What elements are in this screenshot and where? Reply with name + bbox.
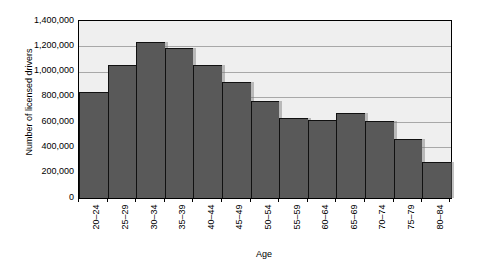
bar-slot xyxy=(336,21,365,198)
bar-slot xyxy=(165,21,194,198)
bar xyxy=(308,120,337,198)
x-tick-slot: 65–69 xyxy=(335,199,364,247)
x-tick-mark xyxy=(135,199,136,202)
x-tick-mark xyxy=(307,199,308,202)
x-tick-slot: 70–74 xyxy=(364,199,393,247)
x-tick-mark xyxy=(335,199,336,202)
x-axis-title: Age xyxy=(78,249,450,259)
bar xyxy=(279,118,308,198)
bar-slot xyxy=(394,21,423,198)
x-tick-mark xyxy=(364,199,365,202)
x-tick-slot: 45–49 xyxy=(221,199,250,247)
x-tick-label: 80–84 xyxy=(436,204,445,229)
x-tick-slot: 50–54 xyxy=(250,199,279,247)
bar-slot xyxy=(365,21,394,198)
bar-slot xyxy=(136,21,165,198)
x-tick-label: 30–34 xyxy=(150,204,159,229)
x-tick-mark xyxy=(192,199,193,202)
x-tick-label: 25–29 xyxy=(121,204,130,229)
y-tick-label: 200,000 xyxy=(16,167,74,176)
y-tick-label: 1,400,000 xyxy=(16,16,74,25)
x-tick-label: 60–64 xyxy=(321,204,330,229)
x-tick-mark xyxy=(278,199,279,202)
x-tick-slot: 80–84 xyxy=(421,199,450,247)
bar xyxy=(394,139,423,198)
x-tick-slot: 25–29 xyxy=(107,199,136,247)
x-tick-mark xyxy=(421,199,422,202)
bar xyxy=(251,101,280,198)
x-tick-slot: 75–79 xyxy=(393,199,422,247)
plot-area xyxy=(78,20,452,199)
bar-slot xyxy=(251,21,280,198)
x-tick-slot: 40–44 xyxy=(192,199,221,247)
bar-series xyxy=(79,21,451,198)
bar xyxy=(136,42,165,198)
bar xyxy=(422,162,451,198)
bar xyxy=(79,92,108,198)
bar-slot xyxy=(79,21,108,198)
x-tick-label: 75–79 xyxy=(407,204,416,229)
bar-slot xyxy=(222,21,251,198)
y-tick-label: 600,000 xyxy=(16,117,74,126)
x-tick-label: 55–59 xyxy=(293,204,302,229)
x-tick-slot: 55–59 xyxy=(278,199,307,247)
bar xyxy=(165,48,194,198)
bar xyxy=(193,65,222,198)
x-tick-mark xyxy=(107,199,108,202)
y-tick-label: 800,000 xyxy=(16,91,74,100)
x-tick-label: 40–44 xyxy=(207,204,216,229)
bar xyxy=(365,121,394,198)
x-tick-slot: 20–24 xyxy=(78,199,107,247)
x-tick-slot: 30–34 xyxy=(135,199,164,247)
y-axis-tick-labels: 0200,000400,000600,000800,0001,000,0001,… xyxy=(16,20,74,197)
bar xyxy=(108,65,137,198)
x-tick-mark xyxy=(164,199,165,202)
bar-slot xyxy=(108,21,137,198)
x-tick-mark xyxy=(78,199,79,202)
bar-slot xyxy=(279,21,308,198)
bar xyxy=(222,82,251,198)
y-tick-label: 400,000 xyxy=(16,142,74,151)
bar-slot xyxy=(193,21,222,198)
y-tick-label: 1,200,000 xyxy=(16,41,74,50)
x-tick-label: 70–74 xyxy=(378,204,387,229)
x-tick-label: 20–24 xyxy=(92,204,101,229)
x-tick-label: 50–54 xyxy=(264,204,273,229)
y-tick-label: 1,000,000 xyxy=(16,66,74,75)
bar-chart-figure: Number of licensed drivers 0200,000400,0… xyxy=(0,0,478,269)
x-tick-slot: 60–64 xyxy=(307,199,336,247)
x-axis-tick-labels: 20–2425–2930–3435–3940–4445–4950–5455–59… xyxy=(78,199,450,247)
x-tick-label: 45–49 xyxy=(235,204,244,229)
x-tick-mark xyxy=(250,199,251,202)
x-tick-mark xyxy=(221,199,222,202)
x-tick-label: 35–39 xyxy=(178,204,187,229)
x-tick-mark xyxy=(449,199,450,202)
bar-shadow xyxy=(451,162,454,198)
bar-slot xyxy=(422,21,451,198)
y-tick-label: 0 xyxy=(16,193,74,202)
x-tick-mark xyxy=(393,199,394,202)
bar-slot xyxy=(308,21,337,198)
x-tick-slot: 35–39 xyxy=(164,199,193,247)
x-tick-label: 65–69 xyxy=(350,204,359,229)
bar xyxy=(336,113,365,198)
